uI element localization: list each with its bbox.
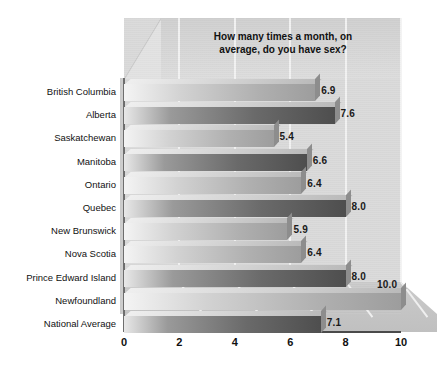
bar-side-face [301,236,306,264]
x-tick-label: 0 [121,336,127,348]
bar-side-face [287,213,292,241]
bar-chart: How many times a month, onaverage, do yo… [0,0,437,368]
bar-front-face [124,177,301,194]
chart-title-line: How many times a month, on [188,30,378,43]
bar-front-face [124,270,346,287]
category-label: Quebec [83,202,116,214]
x-tick-label: 4 [232,336,238,348]
bar-value-label: 5.9 [293,224,308,235]
x-tick-label: 10 [395,336,407,348]
category-label: British Columbia [47,86,116,98]
category-label: Prince Edward Island [26,272,116,284]
bar-side-face [274,120,279,148]
bar-front-face [124,223,287,240]
x-tick-label: 2 [176,336,182,348]
bar-side-face [346,189,351,217]
category-label: Nova Scotia [65,248,116,260]
bar-side-face [321,305,326,333]
bar-value-label: 5.4 [280,131,295,142]
bar-front-face [124,154,307,171]
bar-value-label: 6.4 [307,247,322,258]
bar-front-face [124,200,346,217]
category-label: Manitoba [77,156,116,168]
bar-side-face [307,143,312,171]
bar-front-face [124,246,301,263]
category-label: Newfoundland [55,295,116,307]
bar-value-label: 10.0 [377,279,397,290]
category-label: Saskatchewan [54,132,116,144]
bar-value-label: 7.6 [341,108,356,119]
bar [124,316,321,338]
bar-side-face [301,166,306,194]
x-tick-label: 8 [343,336,349,348]
category-label: National Average [44,318,116,330]
bar-side-face [346,259,351,287]
bar-front-face [124,293,401,310]
bar-value-label: 6.4 [307,178,322,189]
chart-title-line: average, do you have sex? [188,43,378,56]
x-axis-tick-labels: 0246810 [0,336,437,356]
bar-front-face [124,316,321,333]
bar-side-face [315,73,320,101]
bar-series: 6.97.65.46.66.48.05.96.48.010.07.1 [124,78,437,332]
bar-value-label: 7.1 [327,317,342,328]
bar-value-label: 6.9 [321,85,336,96]
bar-side-face [335,97,340,125]
chart-title: How many times a month, onaverage, do yo… [188,30,378,56]
bar-value-label: 8.0 [352,271,367,282]
bar-front-face [124,107,335,124]
category-label: New Brunswick [51,225,116,237]
bar-value-label: 8.0 [352,201,367,212]
category-label: Alberta [86,109,116,121]
category-label: Ontario [85,179,116,191]
x-tick-label: 6 [287,336,293,348]
bar-front-face [124,130,274,147]
bar-front-face [124,84,315,101]
bar-value-label: 6.6 [313,155,328,166]
bar-side-face [401,282,406,310]
